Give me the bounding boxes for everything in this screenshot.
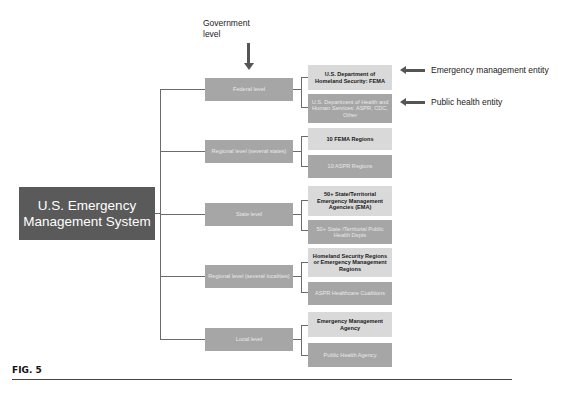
- figure-caption: FIG. 5: [12, 365, 42, 375]
- level-box-state: State level: [205, 203, 293, 226]
- public-health-box-regional-states: 10 ASPR Regions: [308, 155, 392, 178]
- main-system-box: U.S. Emergency Management System: [19, 187, 155, 240]
- bracket-stub-federal: [293, 89, 301, 90]
- emergency-box-federal: U.S. Department of Homeland Security: FE…: [308, 65, 392, 90]
- public-health-box-federal: U.S. Department of Health and Human Serv…: [308, 94, 392, 123]
- level-box-regional-states: Regional level (several states): [205, 140, 293, 163]
- public-health-box-local: Public Health Agency: [308, 343, 392, 367]
- bracket-top-federal: [301, 77, 308, 78]
- bracket-bottom-regional-localities: [301, 292, 308, 293]
- branch-regional-localities: [160, 276, 205, 277]
- bracket-vertical-federal: [301, 77, 302, 107]
- caption-rule: [12, 379, 512, 380]
- level-box-local: Local level: [205, 328, 293, 351]
- bracket-bottom-federal: [301, 107, 308, 108]
- public-health-box-regional-localities: ASPR Healthcare Coalitions: [308, 282, 392, 305]
- emergency-box-regional-states: 10 FEMA Regions: [308, 128, 392, 150]
- emergency-box-state: 50+ State/Territorial Emergency Manageme…: [308, 186, 392, 216]
- level-box-regional-localities: Regional level (several localities): [205, 265, 293, 288]
- emergency-entity-label: Emergency management entity: [431, 65, 549, 76]
- level-box-federal: Federal level: [205, 78, 293, 101]
- bracket-top-regional-states: [301, 136, 308, 137]
- emergency-box-local: Emergency Management Agency: [308, 312, 392, 337]
- left-arrow-icon-public-health: [405, 101, 425, 104]
- branch-regional-states: [160, 151, 205, 152]
- branch-state: [160, 214, 205, 215]
- bracket-top-regional-localities: [301, 262, 308, 263]
- bracket-vertical-local: [301, 325, 302, 355]
- down-arrow-icon: [247, 43, 250, 65]
- bracket-bottom-local: [301, 355, 308, 356]
- emergency-box-regional-localities: Homeland Security Regions or Emergency M…: [308, 248, 392, 277]
- bracket-bottom-state: [301, 230, 308, 231]
- bracket-stub-regional-localities: [293, 276, 301, 277]
- bracket-top-local: [301, 325, 308, 326]
- bracket-stub-state: [293, 214, 301, 215]
- bracket-stub-local: [293, 339, 301, 340]
- public-health-entity-label: Public health entity: [431, 97, 502, 108]
- branch-federal: [160, 89, 205, 90]
- government-level-label: Government level: [203, 18, 263, 39]
- bracket-bottom-regional-states: [301, 166, 308, 167]
- bracket-vertical-regional-localities: [301, 262, 302, 292]
- down-arrow-head: [244, 63, 254, 70]
- bracket-vertical-state: [301, 200, 302, 230]
- bracket-stub-regional-states: [293, 151, 301, 152]
- branch-local: [160, 339, 205, 340]
- bracket-top-state: [301, 200, 308, 201]
- left-arrow-icon-emergency: [405, 69, 425, 72]
- bracket-vertical-regional-states: [301, 136, 302, 166]
- public-health-box-state: 50+ State /Territorial Public Health Dep…: [308, 220, 392, 244]
